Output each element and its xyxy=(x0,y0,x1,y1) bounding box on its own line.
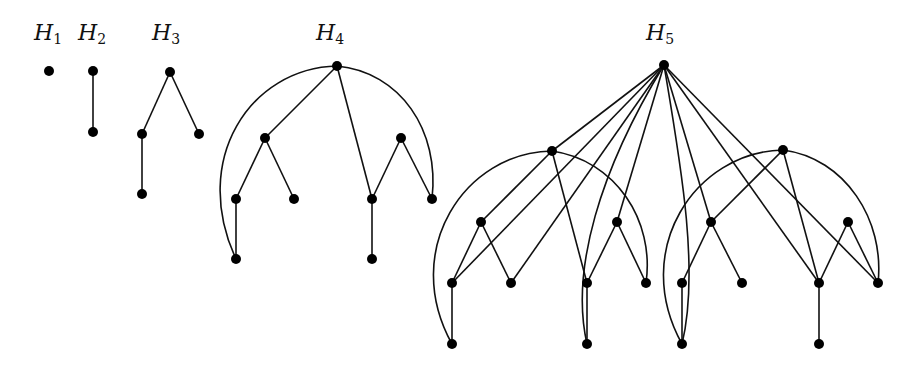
label-subscript: 3 xyxy=(171,31,180,47)
node xyxy=(677,278,687,288)
edge xyxy=(337,66,372,199)
label-subscript: 4 xyxy=(335,31,344,47)
node xyxy=(659,60,669,70)
edge xyxy=(142,72,170,134)
node xyxy=(88,127,98,137)
node xyxy=(367,194,377,204)
arc-edge xyxy=(337,66,433,199)
node xyxy=(814,339,824,349)
graph-label-h4: H4 xyxy=(316,22,344,46)
node xyxy=(260,133,270,143)
node xyxy=(137,129,147,139)
node xyxy=(873,278,883,288)
edge xyxy=(682,222,711,283)
node xyxy=(843,217,853,227)
edge xyxy=(711,150,783,222)
arc-edge xyxy=(220,66,337,259)
edge xyxy=(552,65,664,151)
graph-h2 xyxy=(88,66,98,137)
label-base: H xyxy=(78,20,97,45)
graph-label-h5: H5 xyxy=(646,22,674,46)
edge xyxy=(664,65,819,283)
label-base: H xyxy=(34,20,53,45)
node xyxy=(165,67,175,77)
node xyxy=(137,189,147,199)
label-base: H xyxy=(152,20,171,45)
node xyxy=(367,254,377,264)
graph-h5 xyxy=(433,60,883,349)
edge xyxy=(481,151,552,222)
label-subscript: 5 xyxy=(665,31,674,47)
graph-figure: H1H2H3H4H5 xyxy=(0,0,915,371)
edge xyxy=(372,138,401,199)
graph-canvas xyxy=(0,0,915,371)
edge xyxy=(265,138,294,199)
node xyxy=(194,129,204,139)
node xyxy=(547,146,557,156)
node xyxy=(231,254,241,264)
graph-label-h3: H3 xyxy=(152,22,180,46)
node xyxy=(231,194,241,204)
node xyxy=(582,339,592,349)
edge xyxy=(170,72,199,134)
graph-h3 xyxy=(137,67,204,199)
node xyxy=(506,278,516,288)
node xyxy=(737,278,747,288)
node xyxy=(447,339,457,349)
graph-label-h2: H2 xyxy=(78,22,106,46)
edge xyxy=(452,222,481,283)
node xyxy=(447,278,457,288)
node xyxy=(641,278,651,288)
node xyxy=(612,217,622,227)
edge xyxy=(401,138,432,199)
graph-h4 xyxy=(220,61,437,264)
label-subscript: 2 xyxy=(97,31,106,47)
label-base: H xyxy=(646,20,665,45)
node xyxy=(396,133,406,143)
edge xyxy=(819,222,848,283)
node xyxy=(814,278,824,288)
edge xyxy=(711,222,742,283)
node xyxy=(677,339,687,349)
label-base: H xyxy=(316,20,335,45)
node xyxy=(289,194,299,204)
node xyxy=(476,217,486,227)
node xyxy=(44,66,54,76)
graph-h1 xyxy=(44,66,54,76)
node xyxy=(332,61,342,71)
edge xyxy=(481,222,511,283)
graph-label-h1: H1 xyxy=(34,22,62,46)
node xyxy=(582,278,592,288)
node xyxy=(778,145,788,155)
arc-edge xyxy=(783,150,879,283)
node xyxy=(706,217,716,227)
node xyxy=(427,194,437,204)
edge xyxy=(236,138,265,199)
label-subscript: 1 xyxy=(53,31,62,47)
edge xyxy=(265,66,337,138)
node xyxy=(88,66,98,76)
